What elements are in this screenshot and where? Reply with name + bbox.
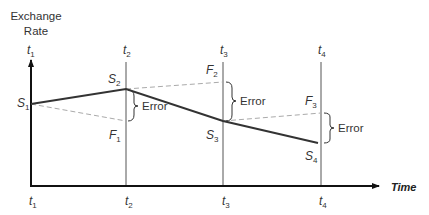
forward-label-f3: F3 [305, 94, 317, 110]
top-label-t3: t3 [220, 43, 228, 59]
forward-label-f2: F2 [206, 63, 218, 79]
bottom-label-t3: t3 [222, 194, 230, 210]
error-brace-3 [324, 113, 334, 143]
error-brace-2 [226, 82, 236, 121]
spot-label-s4: S4 [305, 149, 318, 165]
forward-line-f1 [31, 104, 126, 121]
bottom-label-t4: t4 [319, 194, 327, 210]
error-label-1: Error [142, 100, 168, 112]
y-axis-label-line2: Rate [24, 25, 48, 37]
top-label-t2: t2 [123, 43, 131, 59]
bottom-label-t2: t2 [125, 194, 133, 210]
forward-label-f1: F1 [109, 128, 121, 144]
spot-label-s1: S1 [17, 96, 30, 112]
bottom-label-t1: t1 [29, 194, 37, 210]
forward-line-f2 [126, 82, 223, 89]
top-label-t1: t1 [27, 43, 35, 59]
forward-line-f3 [223, 113, 321, 121]
spot-label-s3: S3 [206, 128, 219, 144]
error-brace-1 [128, 90, 138, 121]
spot-label-s2: S2 [108, 72, 121, 88]
y-axis-label: Exchange [10, 10, 61, 22]
forward-rate-error-diagram: Exchange Rate Time Error Error Error t1 … [0, 0, 429, 215]
error-label-3: Error [338, 122, 364, 134]
spot-rate-line [31, 89, 318, 143]
top-label-t4: t4 [318, 43, 326, 59]
error-label-2: Error [240, 95, 266, 107]
x-axis-label: Time [391, 181, 416, 193]
